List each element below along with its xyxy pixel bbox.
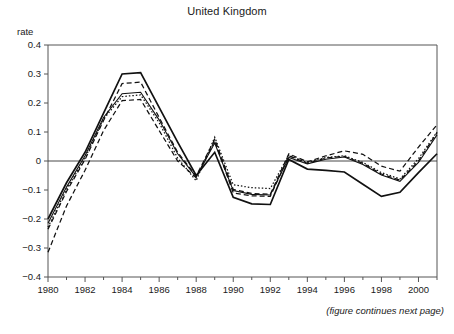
x-tick-label: 1996: [334, 284, 355, 295]
y-axis-ticks: 0.40.30.20.10−0.1−0.2−0.3−0.4: [22, 39, 48, 282]
y-tick-label: 0.2: [28, 97, 41, 108]
y-tick-label: 0: [36, 155, 41, 166]
data-series-line: [48, 73, 437, 219]
figure-container: United Kingdom rate 0.40.30.20.10−0.1−0.…: [0, 0, 454, 334]
x-tick-label: 1994: [297, 284, 318, 295]
x-tick-label: 2000: [408, 284, 429, 295]
data-series-group: [48, 73, 437, 253]
y-tick-label: 0.1: [28, 126, 41, 137]
x-tick-label: 1984: [112, 284, 133, 295]
figure-continuation-note: (figure continues next page): [326, 305, 444, 316]
y-tick-label: −0.2: [22, 213, 41, 224]
y-tick-label: −0.4: [22, 271, 41, 282]
data-series-line: [48, 100, 437, 253]
x-tick-label: 1982: [74, 284, 95, 295]
y-tick-label: −0.1: [22, 184, 41, 195]
line-chart-plot: 0.40.30.20.10−0.1−0.2−0.3−0.4 1980198219…: [0, 0, 454, 334]
x-tick-label: 1990: [223, 284, 244, 295]
x-tick-label: 1986: [149, 284, 170, 295]
x-tick-label: 1992: [260, 284, 281, 295]
x-axis-ticks: 1980198219841986198819901992199419961998…: [37, 277, 437, 295]
data-series-line: [48, 82, 437, 229]
data-series-line: [48, 92, 437, 223]
x-tick-label: 1980: [37, 284, 58, 295]
y-tick-label: 0.3: [28, 68, 41, 79]
x-tick-label: 1988: [186, 284, 207, 295]
y-tick-label: 0.4: [28, 39, 41, 50]
x-tick-label: 1998: [371, 284, 392, 295]
y-tick-label: −0.3: [22, 242, 41, 253]
